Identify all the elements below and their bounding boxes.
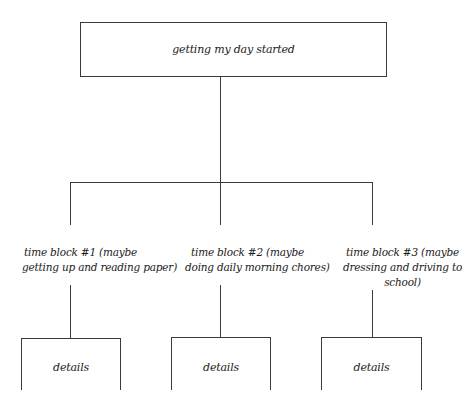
detail-box-1-label: details [53,361,89,374]
detail-drop-1 [70,285,71,338]
detail-drop-2 [220,285,221,338]
time-block-3-line2: dressing and driving to [340,260,465,275]
root-connector-vertical [220,77,221,183]
detail-box-3-label: details [354,361,390,374]
detail-box-2: details [171,337,271,390]
time-block-2-line1: time block #2 (maybe [185,245,330,260]
branch-drop-2 [220,182,221,225]
time-block-2-label: time block #2 (maybe doing daily morning… [185,245,330,275]
detail-box-2-label: details [203,361,239,374]
time-block-2-line2: doing daily morning chores) [185,260,330,275]
branch-drop-1 [70,182,71,225]
detail-box-1: details [21,338,121,390]
time-block-1-line1: time block #1 (maybe [22,245,177,260]
branch-drop-3 [372,182,373,225]
hierarchy-diagram: getting my day started time block #1 (ma… [0,0,475,403]
root-node-label: getting my day started [172,43,294,56]
branch-connector-horizontal [70,182,373,183]
time-block-3-line3: school) [340,275,465,290]
detail-box-3: details [321,337,422,390]
detail-drop-3 [372,290,373,338]
root-node-box: getting my day started [80,22,387,77]
time-block-1-line2: getting up and reading paper) [22,260,177,275]
time-block-3-label: time block #3 (maybe dressing and drivin… [340,245,465,290]
time-block-1-label: time block #1 (maybe getting up and read… [22,245,177,275]
time-block-3-line1: time block #3 (maybe [340,245,465,260]
